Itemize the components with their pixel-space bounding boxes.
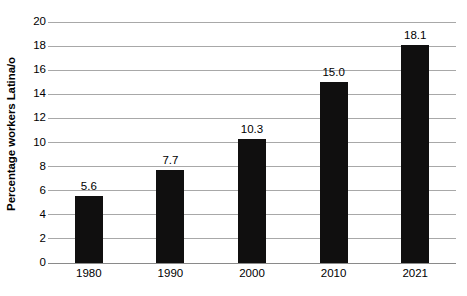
bar[interactable] [401, 45, 429, 263]
x-tick-label: 2000 [222, 268, 282, 280]
y-tick-label: 12 [18, 113, 46, 125]
x-axis-tick-labels: 19801990200020102021 [48, 268, 456, 290]
bar-value-label: 7.7 [145, 155, 195, 167]
y-tick-label: 10 [18, 137, 46, 149]
bar[interactable] [75, 196, 103, 263]
y-tick-label: 18 [18, 40, 46, 52]
bar-value-label: 10.3 [227, 124, 277, 136]
bar-value-label: 15.0 [309, 67, 359, 79]
bar[interactable] [156, 170, 184, 263]
y-tick-label: 16 [18, 64, 46, 76]
x-tick-label: 1980 [59, 268, 119, 280]
y-tick-label: 2 [18, 233, 46, 245]
y-axis-title-label: Percentage workers Latina/o [5, 57, 17, 211]
bar[interactable] [238, 139, 266, 263]
bar[interactable] [320, 82, 348, 263]
bar-value-label: 5.6 [64, 181, 114, 193]
x-tick-label: 2021 [385, 268, 445, 280]
y-tick-label: 6 [18, 185, 46, 197]
bar-chart: Percentage workers Latina/o 024681012141… [0, 0, 467, 296]
y-tick-label: 4 [18, 209, 46, 221]
x-tick-label: 2010 [304, 268, 364, 280]
bar-value-label: 18.1 [390, 30, 440, 42]
y-tick-label: 0 [18, 257, 46, 269]
y-tick-label: 8 [18, 161, 46, 173]
plot-area: 5.67.710.315.018.1 [48, 22, 456, 263]
y-tick-label: 14 [18, 89, 46, 101]
x-tick-label: 1990 [140, 268, 200, 280]
y-axis-tick-labels: 02468101214161820 [18, 0, 46, 296]
y-tick-label: 20 [18, 16, 46, 28]
bars-layer: 5.67.710.315.018.1 [48, 22, 456, 263]
